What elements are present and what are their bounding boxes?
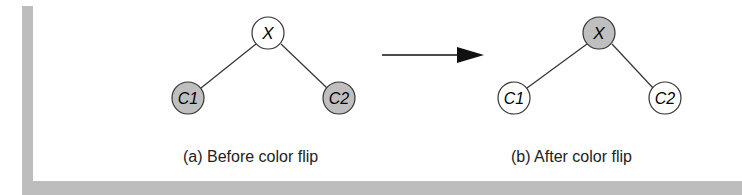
node-label: C1 (178, 90, 198, 107)
caption-before: (a) Before color flip (183, 148, 318, 166)
node-label: X (592, 24, 605, 43)
node-label: C1 (504, 90, 524, 107)
tree-after: X C1 C2 (498, 17, 681, 114)
node-c2-before: C2 (323, 82, 355, 114)
node-c1-after: C1 (498, 82, 530, 114)
arrow-right-icon (382, 47, 484, 63)
node-x-after: X (583, 17, 615, 49)
node-label: X (261, 24, 274, 43)
node-x-before: X (252, 17, 284, 49)
tree-before: X C1 C2 (172, 17, 355, 114)
caption-after: (b) After color flip (511, 148, 632, 166)
node-c1-before: C1 (172, 82, 204, 114)
node-label: C2 (655, 90, 676, 107)
node-label: C2 (329, 90, 350, 107)
node-c2-after: C2 (649, 82, 681, 114)
